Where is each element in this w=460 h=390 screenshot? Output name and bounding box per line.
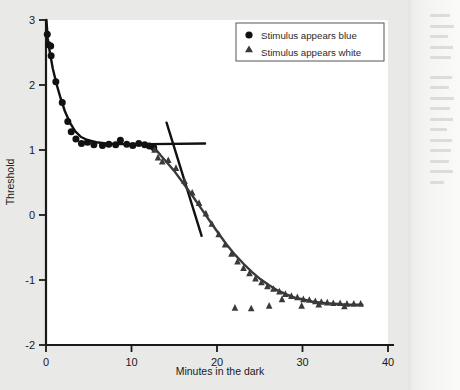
y-tick-label-group: -2-10123 bbox=[25, 14, 35, 351]
data-point-circle bbox=[59, 99, 66, 106]
cone-branch-curve bbox=[46, 20, 153, 146]
data-point-circle bbox=[105, 141, 112, 148]
data-point-circle bbox=[48, 52, 55, 59]
data-point-triangle bbox=[357, 300, 364, 307]
y-tick-label: 1 bbox=[29, 144, 35, 156]
legend-label-blue: Stimulus appears blue bbox=[261, 30, 357, 41]
x-tick-label: 10 bbox=[125, 356, 137, 368]
y-tick-label: 0 bbox=[29, 209, 35, 221]
data-marker-group bbox=[44, 31, 364, 311]
y-tick-label: 2 bbox=[29, 79, 35, 91]
data-point-triangle bbox=[337, 299, 344, 306]
y-tick-label: -1 bbox=[25, 274, 35, 286]
x-axis-title: Minutes in the dark bbox=[176, 365, 265, 377]
y-tick-label: -2 bbox=[25, 339, 35, 351]
data-point-circle bbox=[44, 31, 51, 38]
legend-label-white: Stimulus appears white bbox=[261, 47, 361, 58]
data-point-triangle bbox=[173, 164, 180, 171]
data-point-triangle bbox=[298, 302, 305, 309]
data-point-circle bbox=[78, 140, 85, 147]
legend-circle-marker bbox=[245, 31, 252, 38]
data-point-circle bbox=[129, 142, 136, 149]
data-point-circle bbox=[90, 141, 97, 148]
dark-adaptation-chart: -2-10123 010203040 Minutes in the dark T… bbox=[0, 0, 460, 390]
x-tick-label: 30 bbox=[296, 356, 308, 368]
data-point-circle bbox=[123, 141, 130, 148]
figure-container: -2-10123 010203040 Minutes in the dark T… bbox=[0, 0, 460, 390]
data-point-triangle bbox=[266, 302, 273, 309]
data-point-circle bbox=[117, 137, 124, 144]
data-point-circle bbox=[64, 118, 71, 125]
y-axis-title: Threshold bbox=[4, 159, 16, 206]
data-point-triangle bbox=[351, 300, 358, 307]
axes-group bbox=[46, 20, 394, 345]
data-point-circle bbox=[84, 139, 91, 146]
data-point-circle bbox=[68, 128, 75, 135]
data-point-circle bbox=[47, 43, 54, 50]
data-point-circle bbox=[72, 135, 79, 142]
x-tick-label: 0 bbox=[43, 356, 49, 368]
legend-box: Stimulus appears blue Stimulus appears w… bbox=[236, 23, 384, 61]
data-point-triangle bbox=[248, 305, 255, 312]
x-tick-label: 40 bbox=[382, 356, 394, 368]
data-point-circle bbox=[99, 142, 106, 149]
data-point-circle bbox=[135, 140, 142, 147]
cone-plateau-extension-line bbox=[150, 144, 205, 145]
fitted-curve-group bbox=[46, 20, 362, 305]
data-point-circle bbox=[52, 78, 59, 85]
y-tick-label: 3 bbox=[29, 14, 35, 26]
data-point-triangle bbox=[232, 304, 239, 311]
